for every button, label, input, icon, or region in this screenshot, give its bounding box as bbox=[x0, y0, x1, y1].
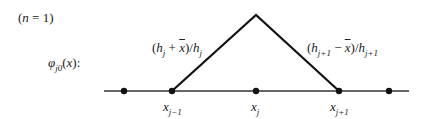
function-label: φj0(x): bbox=[48, 56, 80, 73]
node-dot-xj-minus-1 bbox=[169, 88, 175, 94]
node-label-xj-plus-1: xj+1 bbox=[330, 100, 349, 117]
node-label-xj: xj bbox=[251, 100, 259, 117]
node-dot bbox=[386, 88, 392, 94]
node-dot bbox=[121, 88, 127, 94]
caption: (n = 1) bbox=[18, 11, 54, 24]
left-slope-label: (hj + x)/hj bbox=[152, 41, 202, 58]
node-dot-xj bbox=[253, 88, 259, 94]
right-slope-label: (hj+1 − x)/hj+1 bbox=[307, 41, 378, 58]
node-dot-xj-plus-1 bbox=[336, 88, 342, 94]
node-label-xj-minus-1: xj−1 bbox=[163, 100, 182, 117]
